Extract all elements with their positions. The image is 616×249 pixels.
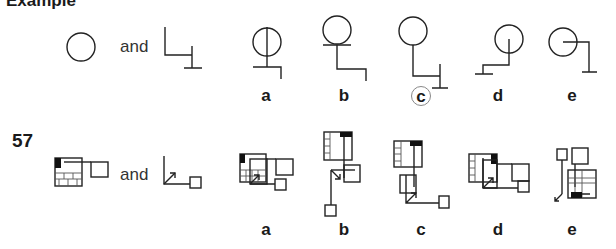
question-option-a-label[interactable]: a bbox=[256, 220, 276, 240]
question-option-b-label[interactable]: b bbox=[334, 220, 354, 240]
example-option-b-figure bbox=[322, 15, 368, 81]
example-option-d-label[interactable]: d bbox=[488, 86, 508, 106]
example-option-b-label[interactable]: b bbox=[334, 86, 354, 106]
example-option-c-label-correct[interactable]: c bbox=[411, 86, 431, 106]
example-option-d-figure bbox=[474, 24, 526, 76]
example-step-figure bbox=[164, 26, 204, 71]
question-number: 57 bbox=[12, 130, 33, 152]
question-option-e-figure bbox=[554, 147, 604, 209]
example-option-a-figure bbox=[252, 27, 288, 79]
question-option-c-figure bbox=[393, 140, 451, 212]
example-option-e-figure bbox=[548, 27, 604, 77]
question-option-d-label[interactable]: d bbox=[488, 220, 508, 240]
question-option-b-figure bbox=[323, 131, 365, 217]
question-option-e-label[interactable]: e bbox=[562, 220, 582, 240]
question-arrow-box-figure bbox=[163, 155, 208, 195]
question-option-c-label[interactable]: c bbox=[411, 220, 431, 240]
question-option-d-figure bbox=[468, 153, 532, 199]
example-and-label: and bbox=[120, 37, 148, 57]
example-option-a-label[interactable]: a bbox=[256, 86, 276, 106]
question-and-label: and bbox=[120, 165, 148, 185]
example-circle-figure bbox=[66, 32, 96, 62]
question-grid-box-figure bbox=[54, 157, 114, 187]
section-title: Example bbox=[6, 0, 76, 11]
question-option-a-figure bbox=[239, 153, 295, 197]
example-option-e-label[interactable]: e bbox=[562, 86, 582, 106]
example-option-c-figure bbox=[398, 16, 450, 89]
